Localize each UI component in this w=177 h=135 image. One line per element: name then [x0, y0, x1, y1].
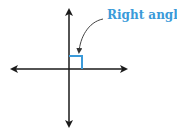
right-angle-label: Right angle	[107, 8, 177, 22]
curved-pointer-arrow	[79, 19, 103, 52]
right-angle-marker	[69, 56, 82, 69]
